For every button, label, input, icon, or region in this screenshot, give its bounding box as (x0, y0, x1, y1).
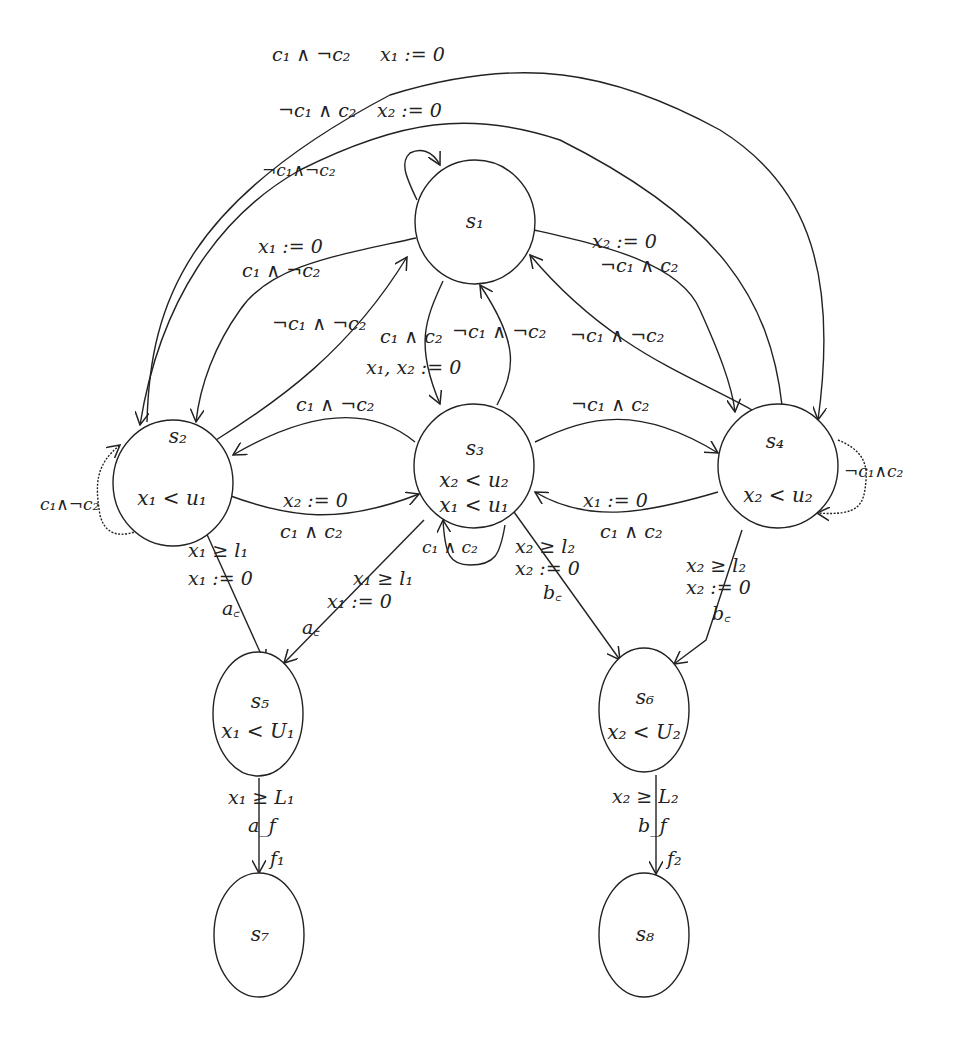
label-top-inner-reset: x₂ := 0 (377, 99, 442, 121)
state-s6-name: s₆ (636, 685, 654, 709)
state-s2-name: s₂ (169, 424, 187, 448)
edge-s3-s2 (233, 417, 415, 455)
state-s3-name: s₃ (466, 436, 484, 460)
label-s3-self: c₁ ∧ c₂ (422, 537, 478, 557)
state-s2: s₂ x₁ < u₁ (113, 420, 233, 546)
label-s1-s2-reset: x₁ := 0 (258, 235, 323, 257)
label-s2-s5-guard: x₁ ≥ l₁ (188, 539, 248, 561)
label-s4-s1-guard: ¬c₁ ∧ ¬c₂ (570, 324, 664, 346)
label-s6-s8-output: f₂ (665, 847, 682, 869)
label-s6-s8-guard: x₂ ≥ L₂ (612, 785, 679, 807)
label-s5-s7-output: f₁ (268, 847, 285, 869)
label-s2-self: c₁∧¬c₂ (40, 494, 100, 514)
state-s1: s₁ (415, 160, 535, 284)
state-s7-name: s₇ (251, 922, 269, 946)
label-s1-s2-guard: c₁ ∧ ¬c₂ (242, 259, 320, 281)
state-s3: s₃ x₂ < u₂ x₁ < u₁ (414, 404, 534, 528)
label-s1-self: ¬c₁∧¬c₂ (262, 160, 336, 180)
label-top-inner-guard: ¬c₁ ∧ c₂ (278, 99, 356, 121)
state-s4-name: s₄ (766, 429, 784, 453)
label-s4-self: ¬c₁∧c₂ (844, 461, 904, 481)
label-s4-s3-reset: x₁ := 0 (583, 489, 648, 511)
state-s4: s₄ x₂ < u₂ (718, 404, 838, 528)
label-s5-s7-action: a_f (248, 814, 279, 837)
label-s4-s6-reset: x₂ := 0 (686, 576, 751, 598)
label-s3-s6-guard: x₂ ≥ l₂ (515, 535, 575, 557)
label-top-outer-guard: c₁ ∧ ¬c₂ (272, 43, 350, 65)
state-s5-invariant: x₁ < U₁ (221, 719, 295, 743)
state-s3-invariant-1: x₂ < u₂ (439, 468, 509, 492)
label-s3-s4-guard: ¬c₁ ∧ c₂ (571, 393, 649, 415)
state-s5: s₅ x₁ < U₁ (213, 652, 303, 776)
label-s1-s4-guard: ¬c₁ ∧ c₂ (600, 254, 678, 276)
label-s1-s4-reset: x₂ := 0 (592, 230, 657, 252)
label-s6-s8-action: b_f (638, 814, 670, 837)
state-s8: s₈ (599, 873, 689, 997)
label-s1-s3-reset: x₁, x₂ := 0 (366, 356, 461, 378)
timed-automaton-diagram: s₁ s₂ x₁ < u₁ s₃ x₂ < u₂ x₁ < u₁ s₄ x₂ <… (0, 0, 962, 1037)
label-s3-s2-guard: c₁ ∧ ¬c₂ (296, 393, 374, 415)
label-s3-s6-action: b꜀ (543, 581, 562, 603)
state-s4-invariant: x₂ < u₂ (743, 483, 813, 507)
label-s2-s5-reset: x₁ := 0 (188, 567, 253, 589)
state-s2-invariant: x₁ < u₁ (137, 486, 207, 510)
edge-s3-s1 (480, 285, 510, 405)
label-s4-s6-guard: x₂ ≥ l₂ (686, 554, 746, 576)
label-top-outer-reset: x₁ := 0 (380, 43, 445, 65)
label-s2-s5-action: a꜀ (222, 597, 240, 619)
label-s3-s1-guard: ¬c₁ ∧ ¬c₂ (452, 320, 546, 342)
label-s4-s3-guard: c₁ ∧ c₂ (600, 520, 663, 542)
label-s4-s6-action: b꜀ (712, 602, 731, 624)
label-s2-s1-guard: ¬c₁ ∧ ¬c₂ (272, 312, 366, 334)
label-s3-s5-reset: x₁ := 0 (327, 590, 392, 612)
state-s3-invariant-2: x₁ < u₁ (439, 493, 509, 517)
edge-s3-s4 (535, 419, 718, 453)
label-s5-s7-guard: x₁ ≥ L₁ (228, 786, 295, 808)
state-s1-name: s₁ (466, 209, 484, 233)
label-s3-s5-action: a꜀ (302, 616, 320, 638)
state-s8-name: s₈ (636, 922, 654, 946)
state-s6-invariant: x₂ < U₂ (607, 720, 681, 744)
label-s1-s3-guard: c₁ ∧ c₂ (380, 325, 443, 347)
state-s5-name: s₅ (251, 689, 269, 713)
label-s3-s5-guard: x₁ ≥ l₁ (353, 567, 413, 589)
label-s2-s3-guard: c₁ ∧ c₂ (280, 520, 343, 542)
state-s7: s₇ (214, 873, 304, 997)
state-s6: s₆ x₂ < U₂ (599, 648, 689, 772)
label-s2-s3-reset: x₂ := 0 (283, 489, 348, 511)
label-s3-s6-reset: x₂ := 0 (515, 557, 580, 579)
